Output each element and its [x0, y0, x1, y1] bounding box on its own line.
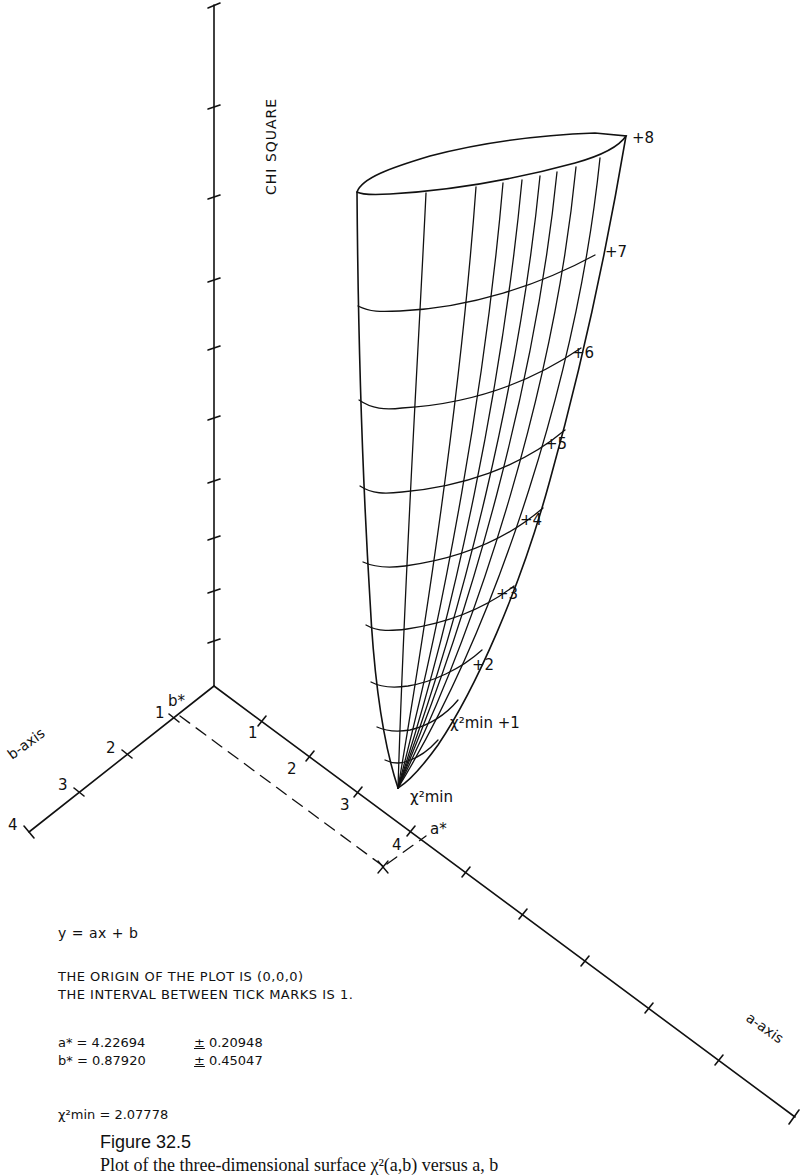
- b-tick-4: 4: [8, 816, 18, 834]
- chi2-min-value: = 2.07778: [99, 1107, 168, 1122]
- b-tick-2: 2: [106, 739, 116, 757]
- chi2-min-summary: χ²min = 2.07778: [58, 1107, 168, 1122]
- param-a-error: 0.20948: [209, 1035, 263, 1050]
- surface-meridians: [398, 158, 600, 788]
- param-row-a: a* = 4.22694 ± 0.20948: [58, 1035, 263, 1050]
- origin-note: THE ORIGIN OF THE PLOT IS (0,0,0): [58, 969, 304, 984]
- vertical-axis-label: CHI SQUARE: [263, 98, 279, 195]
- a-star-label: a*: [430, 820, 447, 838]
- b-tick-3: 3: [58, 776, 68, 794]
- chi2-min-label: χ²min: [58, 1107, 95, 1122]
- minimum-projection-marker: [378, 861, 388, 873]
- param-row-b: b* = 0.87920 ± 0.45047: [58, 1053, 263, 1068]
- param-a-plusminus: ±: [194, 1035, 205, 1050]
- interval-note: THE INTERVAL BETWEEN TICK MARKS IS 1.: [58, 987, 353, 1002]
- b-axis-label: b-axis: [4, 725, 47, 763]
- figure-caption: Plot of the three-dimensional surface χ²…: [100, 1155, 498, 1176]
- a-tick-4: 4: [392, 836, 402, 854]
- level-label-plus2: +2: [472, 656, 494, 674]
- model-equation: y = ax + b: [58, 925, 138, 941]
- b-tick-1: 1: [155, 704, 165, 722]
- figure-label: Figure 32.5: [100, 1132, 191, 1153]
- level-label-plus1: χ²min +1: [450, 714, 520, 732]
- level-label-plus8: +8: [632, 129, 654, 147]
- level-label-plus4: +4: [520, 511, 542, 529]
- a-tick-1: 1: [248, 724, 258, 742]
- level-label-plus5: +5: [545, 435, 567, 453]
- surface-left-edge: [357, 192, 398, 788]
- surface-top-rim: [357, 133, 626, 195]
- a-tick-2: 2: [287, 760, 297, 778]
- level-label-plus7: +7: [605, 243, 627, 261]
- level-label-plus6: +6: [572, 344, 594, 362]
- param-b-plusminus: ±: [194, 1053, 205, 1068]
- b-star-label: b*: [168, 692, 186, 710]
- a-tick-3: 3: [340, 796, 350, 814]
- param-b-value: b* = 0.87920: [58, 1053, 194, 1068]
- param-a-value: a* = 4.22694: [58, 1035, 194, 1050]
- a-axis-label: a-axis: [743, 1009, 786, 1046]
- a-axis: [214, 686, 795, 1117]
- surface-levels: [358, 255, 595, 763]
- level-label-min: χ²min: [410, 788, 453, 806]
- level-label-plus3: +3: [496, 585, 518, 603]
- param-b-error: 0.45047: [209, 1053, 263, 1068]
- projection-lines: [180, 716, 426, 866]
- b-axis: [29, 686, 214, 832]
